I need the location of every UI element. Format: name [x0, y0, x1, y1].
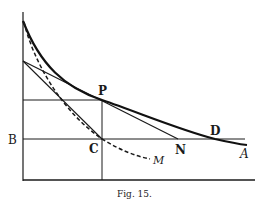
diagram: P B C N D A M Fig. 15. [0, 0, 263, 202]
curve-m [24, 22, 150, 159]
label-a: A [239, 147, 249, 161]
figure-caption: Fig. 15. [117, 189, 152, 199]
label-c: C [89, 142, 99, 156]
label-p: P [98, 84, 107, 98]
label-n: N [175, 143, 186, 157]
label-d: D [210, 124, 220, 138]
label-b: B [8, 133, 17, 147]
label-m: M [152, 154, 165, 167]
